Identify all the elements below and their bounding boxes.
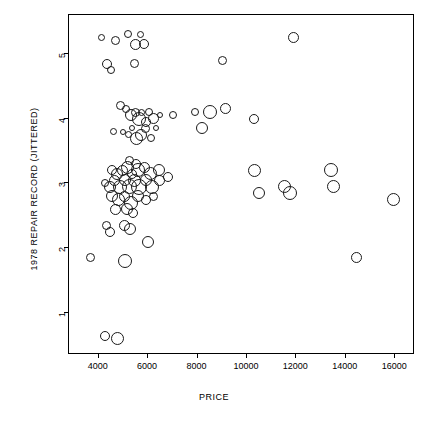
x-tick-label: 4000 — [88, 361, 108, 371]
x-tick-label: 16000 — [382, 361, 407, 371]
data-point — [110, 128, 117, 135]
data-point — [110, 204, 121, 215]
data-point — [327, 180, 340, 193]
x-tick-mark — [394, 354, 395, 358]
x-tick-mark — [147, 354, 148, 358]
x-tick-mark — [197, 354, 198, 358]
data-point — [149, 192, 158, 201]
y-tick-label: 5 — [57, 53, 67, 71]
data-point — [100, 331, 110, 341]
data-point — [191, 108, 199, 116]
data-point — [86, 253, 95, 262]
x-tick-label: 6000 — [137, 361, 157, 371]
data-point — [124, 30, 132, 38]
plot-area — [68, 14, 414, 354]
x-tick-label: 8000 — [186, 361, 206, 371]
x-tick-mark — [295, 354, 296, 358]
data-point — [147, 134, 155, 142]
data-point — [249, 114, 259, 124]
data-point — [324, 163, 338, 177]
x-tick-mark — [345, 354, 346, 358]
y-tick-label: 3 — [57, 182, 67, 200]
data-point — [130, 59, 139, 68]
x-tick-label: 10000 — [233, 361, 258, 371]
data-point — [218, 56, 227, 65]
x-tick-label: 14000 — [332, 361, 357, 371]
data-point — [196, 122, 208, 134]
data-point — [220, 103, 231, 114]
scatter-chart: 1978 REPAIR RECORD (JITTERED) 4000600080… — [0, 0, 428, 424]
data-point — [129, 125, 135, 131]
data-point — [105, 227, 115, 237]
y-tick-label: 1 — [57, 312, 67, 330]
data-point — [128, 208, 138, 218]
data-point — [169, 111, 177, 119]
data-point — [111, 332, 124, 345]
data-points-layer — [69, 15, 413, 353]
data-point — [141, 124, 150, 133]
data-point — [111, 36, 120, 45]
y-axis-label: 1978 REPAIR RECORD (JITTERED) — [29, 69, 39, 309]
data-point — [118, 254, 132, 268]
data-point — [387, 193, 400, 206]
y-tick-label: 4 — [57, 118, 67, 136]
y-tick-label: 2 — [57, 247, 67, 265]
x-tick-label: 12000 — [283, 361, 308, 371]
x-tick-mark — [98, 354, 99, 358]
x-axis-label: PRICE — [0, 392, 428, 402]
x-tick-mark — [246, 354, 247, 358]
data-point — [153, 125, 159, 131]
data-point — [124, 223, 136, 235]
data-point — [288, 32, 299, 43]
data-point — [98, 34, 105, 41]
data-point — [351, 252, 362, 263]
data-point — [283, 186, 297, 200]
data-point — [137, 31, 144, 38]
data-point — [154, 175, 165, 186]
data-point — [139, 39, 149, 49]
data-point — [107, 66, 115, 74]
data-point — [248, 164, 261, 177]
data-point — [253, 187, 265, 199]
data-point — [203, 105, 217, 119]
data-point — [142, 236, 154, 248]
data-point — [157, 112, 163, 118]
